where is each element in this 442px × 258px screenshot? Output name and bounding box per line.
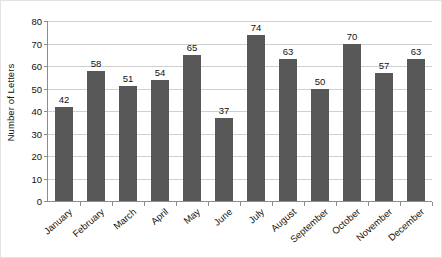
- y-tick-label: 20: [31, 151, 42, 162]
- bar[interactable]: [183, 55, 201, 201]
- bar-group[interactable]: 70: [336, 21, 368, 201]
- bar-value-label: 58: [80, 58, 112, 69]
- bar-group[interactable]: 54: [144, 21, 176, 201]
- bar-group[interactable]: 57: [368, 21, 400, 201]
- x-tick-label: March: [111, 206, 138, 232]
- x-tick-label: January: [41, 206, 74, 236]
- bar-value-label: 57: [368, 60, 400, 71]
- y-tick-label: 40: [31, 106, 42, 117]
- bar-group[interactable]: 42: [48, 21, 80, 201]
- bar[interactable]: [375, 73, 393, 201]
- bar[interactable]: [311, 89, 329, 202]
- bar-value-label: 50: [304, 76, 336, 87]
- bar-value-label: 54: [144, 67, 176, 78]
- x-tick-label: June: [211, 206, 234, 228]
- bar-chart-figure: Number of Letters 01020304050607080 4258…: [0, 0, 442, 258]
- bar-value-label: 70: [336, 31, 368, 42]
- x-tick-label: May: [181, 206, 202, 226]
- y-axis-tick-labels: 01020304050607080: [21, 15, 45, 203]
- x-tick-label: July: [246, 206, 266, 225]
- x-tick-mark: [432, 202, 433, 206]
- y-tick-label: 60: [31, 61, 42, 72]
- bar-value-label: 65: [176, 42, 208, 53]
- x-tick-label: February: [70, 206, 106, 239]
- bar[interactable]: [279, 59, 297, 201]
- y-axis-title-text: Number of Letters: [6, 63, 17, 141]
- bar[interactable]: [407, 59, 425, 201]
- bar-group[interactable]: 74: [240, 21, 272, 201]
- bar[interactable]: [215, 118, 233, 201]
- y-tick-label: 50: [31, 83, 42, 94]
- bar-group[interactable]: 58: [80, 21, 112, 201]
- bar-value-label: 63: [272, 46, 304, 57]
- bar[interactable]: [343, 44, 361, 202]
- x-tick-label: April: [149, 206, 171, 227]
- bar-value-label: 74: [240, 22, 272, 33]
- bar-group[interactable]: 37: [208, 21, 240, 201]
- y-tick-label: 10: [31, 173, 42, 184]
- plot-area: 425851546537746350705763: [47, 21, 432, 202]
- bar[interactable]: [119, 86, 137, 201]
- bar-group[interactable]: 65: [176, 21, 208, 201]
- bar-group[interactable]: 51: [112, 21, 144, 201]
- bars-layer: 425851546537746350705763: [48, 21, 432, 201]
- y-tick-label: 30: [31, 128, 42, 139]
- y-tick-label: 0: [37, 196, 42, 207]
- x-axis-tick-labels: JanuaryFebruaryMarchAprilMayJuneJulyAugu…: [47, 204, 431, 258]
- bar[interactable]: [55, 107, 73, 202]
- y-tick-label: 70: [31, 38, 42, 49]
- bar[interactable]: [151, 80, 169, 202]
- y-tick-mark: [44, 201, 48, 202]
- bar-value-label: 37: [208, 105, 240, 116]
- y-axis-title: Number of Letters: [1, 1, 21, 203]
- bar-value-label: 63: [400, 46, 432, 57]
- bar-group[interactable]: 50: [304, 21, 336, 201]
- bar-value-label: 51: [112, 73, 144, 84]
- bar-group[interactable]: 63: [400, 21, 432, 201]
- y-tick-label: 80: [31, 16, 42, 27]
- bar[interactable]: [87, 71, 105, 202]
- bar-group[interactable]: 63: [272, 21, 304, 201]
- bar-value-label: 42: [48, 94, 80, 105]
- bar[interactable]: [247, 35, 265, 202]
